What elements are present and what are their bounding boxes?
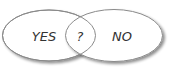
yes-label: YES [32, 29, 56, 44]
no-label: NO [112, 29, 132, 44]
intersection-label: ? [77, 29, 84, 44]
venn-diagram: YES ? NO [0, 0, 178, 70]
